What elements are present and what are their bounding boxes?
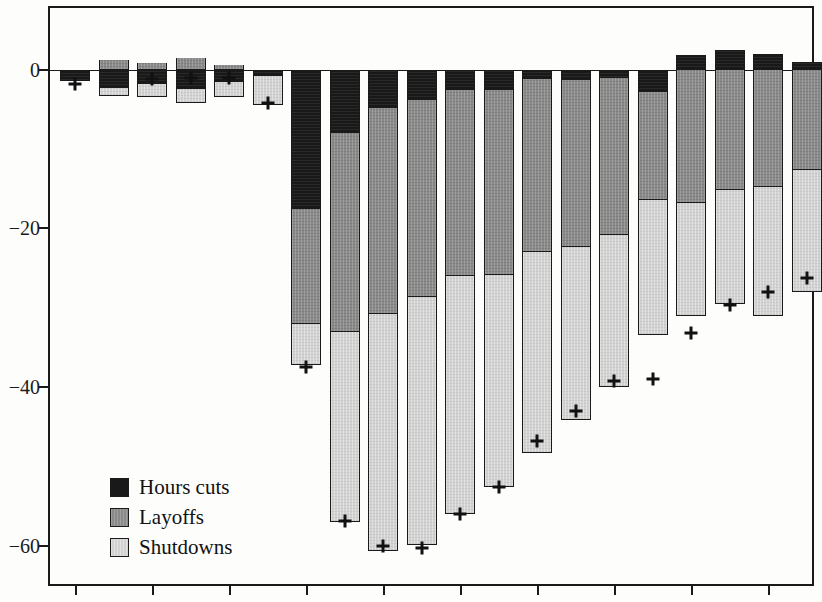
plot-area: Hours cutsLayoffsShutdowns (48, 6, 814, 586)
y-tick-label: −40 (0, 376, 40, 399)
x-tick-mark (306, 586, 308, 595)
bar-segment-shutdowns[interactable] (599, 235, 629, 388)
segment-divider (99, 69, 129, 71)
x-tick-mark (152, 586, 154, 595)
bar-segment-shutdowns[interactable] (792, 170, 822, 292)
bar-segment-shutdowns[interactable] (99, 88, 129, 96)
legend-item[interactable]: Layoffs (110, 502, 300, 532)
bar-segment-hours-cuts[interactable] (368, 70, 398, 108)
bar-segment-shutdowns[interactable] (676, 203, 706, 316)
bar-stack[interactable] (753, 6, 783, 586)
bar-segment-layoffs[interactable] (445, 90, 475, 276)
bar-segment-shutdowns[interactable] (753, 187, 783, 316)
bar-segment-shutdowns[interactable] (445, 276, 475, 514)
bar-segment-layoffs[interactable] (599, 78, 629, 235)
bar-stack[interactable] (676, 6, 706, 586)
bar-segment-hours-cuts[interactable] (753, 54, 783, 70)
legend-label: Layoffs (139, 507, 204, 528)
bar-segment-shutdowns[interactable] (214, 82, 244, 96)
bar-segment-layoffs[interactable] (792, 70, 822, 170)
y-tick-label: −60 (0, 535, 40, 558)
bar-segment-shutdowns[interactable] (715, 190, 745, 304)
bar-segment-layoffs[interactable] (407, 100, 437, 297)
legend-swatch-icon (110, 478, 129, 497)
bar-segment-hours-cuts[interactable] (407, 70, 437, 100)
bar-segment-hours-cuts[interactable] (715, 50, 745, 69)
y-tick-mark (39, 227, 48, 229)
bar-stack[interactable] (638, 6, 668, 586)
bar-stack[interactable] (368, 6, 398, 586)
y-tick-label: −20 (0, 217, 40, 240)
bar-segment-hours-cuts[interactable] (60, 70, 90, 82)
x-tick-mark (460, 586, 462, 595)
bar-segment-shutdowns[interactable] (638, 200, 668, 335)
chart-container: 0−20−40−60 Hours cutsLayoffsShutdowns (0, 0, 822, 602)
bar-stack[interactable] (599, 6, 629, 586)
bar-segment-layoffs[interactable] (561, 80, 591, 247)
segment-divider (176, 69, 206, 71)
x-tick-mark (75, 586, 77, 595)
y-tick-mark (39, 69, 48, 71)
bar-segment-layoffs[interactable] (330, 133, 360, 332)
bar-segment-layoffs[interactable] (676, 70, 706, 203)
segment-divider (214, 69, 244, 71)
bar-stack[interactable] (484, 6, 514, 586)
segment-divider (137, 69, 167, 71)
x-tick-mark (229, 586, 231, 595)
bar-stack[interactable] (522, 6, 552, 586)
bar-segment-layoffs[interactable] (291, 209, 321, 324)
chart-legend: Hours cutsLayoffsShutdowns (110, 472, 300, 562)
bar-segment-layoffs[interactable] (715, 70, 745, 191)
legend-item[interactable]: Hours cuts (110, 472, 300, 502)
bar-stack[interactable] (60, 6, 90, 586)
legend-label: Hours cuts (139, 477, 229, 498)
x-tick-mark (537, 586, 539, 595)
bar-segment-layoffs[interactable] (638, 92, 668, 200)
bar-segment-shutdowns[interactable] (368, 314, 398, 551)
bar-segment-hours-cuts[interactable] (99, 70, 129, 88)
x-tick-mark (614, 586, 616, 595)
bar-segment-layoffs[interactable] (484, 90, 514, 274)
axis-line-left (48, 6, 50, 586)
x-tick-mark (383, 586, 385, 595)
bar-segment-shutdowns[interactable] (137, 84, 167, 97)
x-tick-mark (768, 586, 770, 595)
bar-segment-shutdowns[interactable] (561, 247, 591, 420)
bar-segment-shutdowns[interactable] (253, 76, 283, 105)
bar-stack[interactable] (445, 6, 475, 586)
bar-stack[interactable] (792, 6, 822, 586)
bar-segment-shutdowns[interactable] (484, 275, 514, 488)
bar-segment-hours-cuts[interactable] (291, 70, 321, 209)
bar-segment-hours-cuts[interactable] (676, 55, 706, 69)
bar-stack[interactable] (330, 6, 360, 586)
bar-segment-shutdowns[interactable] (291, 324, 321, 365)
bar-segment-layoffs[interactable] (368, 108, 398, 315)
legend-swatch-icon (110, 538, 129, 557)
bar-segment-shutdowns[interactable] (407, 297, 437, 545)
legend-label: Shutdowns (139, 537, 232, 558)
bar-segment-layoffs[interactable] (753, 70, 783, 188)
bar-segment-shutdowns[interactable] (176, 89, 206, 103)
y-tick-mark (39, 545, 48, 547)
bar-segment-hours-cuts[interactable] (330, 70, 360, 134)
bar-stack[interactable] (407, 6, 437, 586)
bar-segment-shutdowns[interactable] (522, 252, 552, 452)
bar-segment-hours-cuts[interactable] (176, 70, 206, 89)
y-axis-labels: 0−20−40−60 (0, 6, 40, 586)
bar-stack[interactable] (561, 6, 591, 586)
legend-swatch-icon (110, 508, 129, 527)
bar-segment-layoffs[interactable] (522, 79, 552, 252)
bar-segment-shutdowns[interactable] (330, 332, 360, 523)
bar-segment-hours-cuts[interactable] (137, 70, 167, 84)
bar-segment-hours-cuts[interactable] (638, 70, 668, 92)
bar-segment-hours-cuts[interactable] (484, 70, 514, 91)
bar-segment-hours-cuts[interactable] (445, 70, 475, 91)
legend-item[interactable]: Shutdowns (110, 532, 300, 562)
x-tick-mark (691, 586, 693, 595)
bar-stack[interactable] (715, 6, 745, 586)
y-tick-mark (39, 386, 48, 388)
y-tick-label: 0 (0, 58, 40, 81)
